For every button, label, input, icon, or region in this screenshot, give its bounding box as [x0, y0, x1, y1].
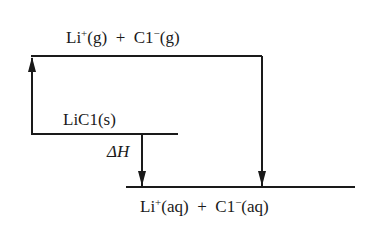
delta-h-arrowhead-icon [138, 171, 146, 186]
solid-label: LiC1(s) [63, 111, 116, 128]
plus-sign: + [197, 197, 207, 216]
cl-symbol: C1 [215, 197, 235, 216]
cl-symbol: C1 [134, 28, 154, 47]
down-arrowhead-icon [258, 171, 266, 186]
plus-sign: + [116, 28, 126, 47]
li-symbol: Li [140, 197, 155, 216]
li-state: (g) [87, 28, 107, 47]
li-symbol: Li [66, 28, 81, 47]
up-arrowhead-icon [28, 57, 36, 72]
cl-state: (aq) [241, 197, 268, 216]
delta-h-label: ΔH [107, 143, 129, 160]
li-state: (aq) [161, 197, 188, 216]
gas-ions-label: Li+(g) + C1−(g) [66, 29, 180, 46]
cl-state: (g) [160, 28, 180, 47]
aqueous-ions-label: Li+(aq) + C1−(aq) [140, 198, 269, 215]
